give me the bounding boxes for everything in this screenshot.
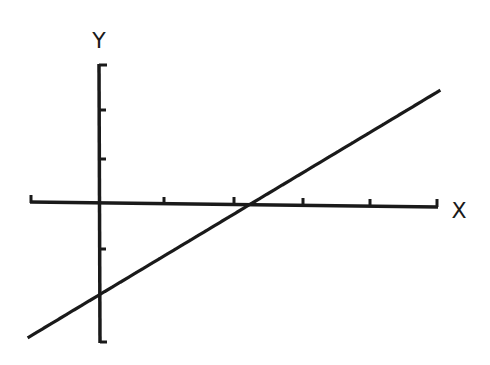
x-axis bbox=[30, 195, 438, 207]
line-graph: Y X bbox=[0, 0, 490, 365]
x-axis-label: X bbox=[451, 198, 466, 223]
plotted-line bbox=[29, 91, 439, 337]
y-axis-label: Y bbox=[91, 28, 106, 53]
